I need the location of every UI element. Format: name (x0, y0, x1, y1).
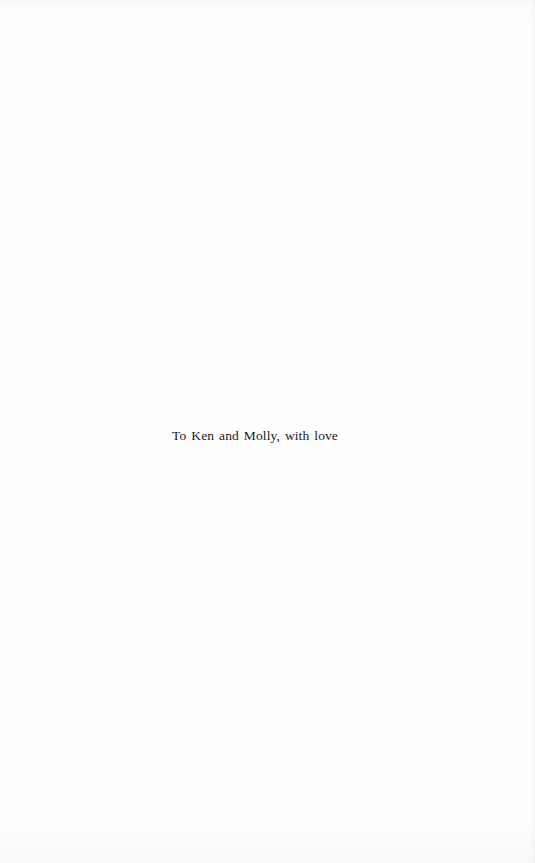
dedication-text: To Ken and Molly, with love (0, 428, 510, 444)
book-page: To Ken and Molly, with love (0, 0, 535, 863)
